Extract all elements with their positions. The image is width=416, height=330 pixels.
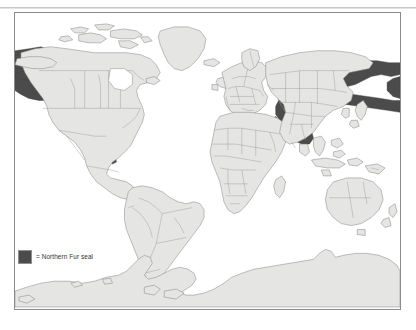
landmass-europe <box>222 49 268 117</box>
landmass-north-america <box>15 24 160 200</box>
world-map-svg: .land { fill:#e5e5e3; stroke:#8a8a8a; st… <box>15 13 400 309</box>
legend-label: = Northern Fur seal <box>36 254 93 260</box>
landmass-africa <box>210 112 288 213</box>
landmass-greenland <box>158 27 206 71</box>
legend-color-swatch <box>18 250 32 264</box>
map-legend: = Northern Fur seal <box>18 250 93 264</box>
map-frame: .land { fill:#e5e5e3; stroke:#8a8a8a; st… <box>14 12 401 310</box>
scan-artifact-line-secondary <box>0 8 416 9</box>
distribution-map-figure: .land { fill:#e5e5e3; stroke:#8a8a8a; st… <box>0 0 416 330</box>
landmass-australia <box>325 178 397 236</box>
